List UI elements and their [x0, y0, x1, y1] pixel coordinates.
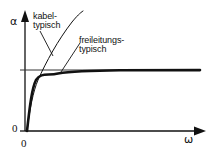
- annotation-freileitungs-line2: typisch: [79, 45, 124, 54]
- plot-canvas: [0, 0, 212, 162]
- curve-freileitungs-typisch: [27, 70, 200, 131]
- x-axis: [25, 127, 206, 136]
- figure-container: kabel- typisch freileitungs- typisch α ω…: [0, 0, 212, 162]
- leader-line-kabel: [40, 31, 53, 56]
- annotation-freileitungs-typisch: freileitungs- typisch: [79, 36, 124, 55]
- annotation-kabel-line2: typisch: [33, 21, 60, 30]
- y-axis-origin-label: 0: [12, 123, 17, 135]
- x-axis-origin-label: 0: [21, 138, 26, 150]
- y-axis-label-alpha: α: [10, 16, 17, 28]
- x-axis-label-omega: ω: [184, 134, 193, 146]
- leader-line-freileitungs: [61, 43, 80, 72]
- annotation-kabel-typisch: kabel- typisch: [33, 12, 60, 31]
